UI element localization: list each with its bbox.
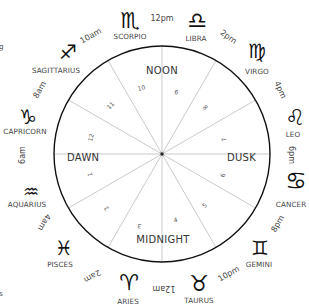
hour-number: 7 xyxy=(220,137,228,143)
time-label: 10pm xyxy=(217,264,242,283)
sagittarius-icon: ♐ xyxy=(59,40,77,64)
time-label: 4am xyxy=(36,212,53,232)
sign-aquarius: ♒ AQUARIUS xyxy=(8,181,47,209)
center-dot xyxy=(161,153,164,156)
hour-number: 5 xyxy=(200,201,208,209)
sign-virgo: ♍ VIRGO xyxy=(245,39,269,76)
quadrant-noon: NOON xyxy=(146,65,178,76)
hour-number: 3 xyxy=(136,222,142,230)
sign-aries: ♈ ARIES xyxy=(117,270,139,305)
zodiac-clock-diagram: NOON DAWN DUSK MIDNIGHT 10 9 8 7 6 5 4 3… xyxy=(0,0,309,305)
virgo-icon: ♍ xyxy=(248,39,266,63)
sign-label: CAPRICORN xyxy=(3,127,46,136)
sign-label: SAGITTARIUS xyxy=(32,66,81,75)
leo-icon: ♌ xyxy=(285,105,305,130)
cancer-icon: ♋ xyxy=(285,167,307,195)
capricorn-icon: ♑ xyxy=(19,105,37,129)
hour-number: 12 xyxy=(86,133,95,142)
sign-taurus: ♉ TAURUS xyxy=(183,271,214,305)
sign-label: PISCES xyxy=(47,260,73,269)
quadrant-dawn: DAWN xyxy=(67,152,99,163)
sign-label: CANCER xyxy=(276,200,306,209)
time-label: 12am xyxy=(152,284,175,293)
zodiac-signs: ♏ SCORPIO ♎ LIBRA ♍ VIRGO ♌ LEO ♋ CANCER… xyxy=(3,8,306,305)
aquarius-icon: ♒ xyxy=(23,181,39,202)
pisces-icon: ♓ xyxy=(55,236,73,260)
time-label: 12pm xyxy=(150,14,173,23)
time-label: 10am xyxy=(79,26,103,45)
hour-number: 9 xyxy=(173,88,179,96)
time-label: 8pm xyxy=(269,214,286,234)
time-label: 8am xyxy=(31,80,48,100)
sign-label: VIRGO xyxy=(245,67,269,76)
aries-icon: ♈ xyxy=(119,270,139,295)
sign-label: ARIES xyxy=(117,297,139,305)
sign-label: AQUARIUS xyxy=(8,200,47,209)
sign-label: GEMINI xyxy=(246,260,273,269)
hour-number: 4 xyxy=(173,216,179,224)
time-label: 6am xyxy=(18,146,27,164)
sign-libra: ♎ LIBRA xyxy=(185,8,206,43)
gemini-icon: ♊ xyxy=(251,236,269,260)
sign-label: LIBRA xyxy=(185,34,206,43)
time-label: 2pm xyxy=(218,28,238,46)
sign-pisces: ♓ PISCES xyxy=(47,236,73,269)
time-label: 4pm xyxy=(272,80,288,100)
hour-number: 11 xyxy=(105,100,115,110)
libra-icon: ♎ xyxy=(187,8,207,33)
sign-cancer: ♋ CANCER xyxy=(276,167,307,209)
time-label: 2am xyxy=(82,268,102,285)
quadrant-midnight: MIDNIGHT xyxy=(136,234,190,245)
sign-sagittarius: ♐ SAGITTARIUS xyxy=(32,40,81,75)
taurus-icon: ♉ xyxy=(189,271,209,296)
hour-number: 2 xyxy=(102,205,110,213)
scorpio-icon: ♏ xyxy=(120,8,140,33)
sign-capricorn: ♑ CAPRICORN xyxy=(3,105,46,136)
sign-gemini: ♊ GEMINI xyxy=(246,236,273,269)
hour-number: 10 xyxy=(137,83,146,92)
time-label: 6pm xyxy=(287,146,296,164)
edge-fragment: g xyxy=(0,42,4,51)
spoke xyxy=(69,100,163,154)
sign-label: TAURUS xyxy=(183,296,214,305)
hour-number: 8 xyxy=(201,104,209,112)
quadrant-dusk: DUSK xyxy=(227,152,256,163)
sign-scorpio: ♏ SCORPIO xyxy=(113,8,146,41)
hour-number: 6 xyxy=(219,172,227,178)
sign-leo: ♌ LEO xyxy=(285,105,305,139)
hour-number: 1 xyxy=(86,172,94,178)
edge-fragment: s xyxy=(0,289,3,298)
sign-label: LEO xyxy=(286,130,301,139)
diagram-canvas: NOON DAWN DUSK MIDNIGHT 10 9 8 7 6 5 4 3… xyxy=(0,0,309,305)
sign-label: SCORPIO xyxy=(113,32,146,41)
